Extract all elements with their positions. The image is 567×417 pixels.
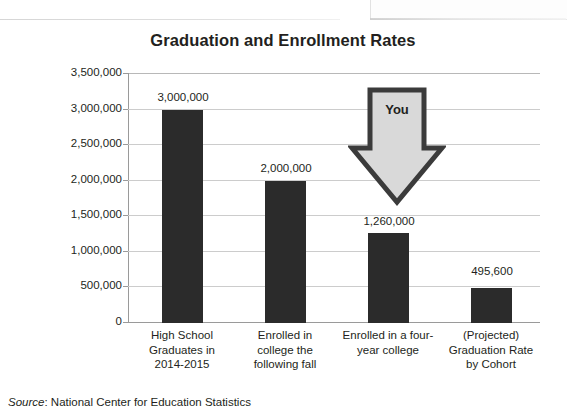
category-label-line: 2014-2015 [126, 357, 238, 372]
down-arrow-icon [348, 86, 446, 206]
category-label-line: Graduates in [126, 343, 238, 358]
category-label-enrolled-in-college: Enrolled in college the following fall [229, 328, 341, 372]
category-label-line: year college [332, 343, 444, 358]
chart-title: Graduation and Enrollment Rates [0, 31, 566, 50]
y-tick-label: 0 [30, 315, 122, 327]
y-tick-label: 1,500,000 [30, 208, 122, 220]
scan-edge-line-right [370, 18, 566, 20]
bar-enrolled-in-college[interactable] [265, 181, 306, 323]
y-tick-mark [123, 322, 128, 323]
y-tick-label: 1,000,000 [30, 244, 122, 256]
y-tick-label: 3,500,000 [30, 66, 122, 78]
category-label-line: by Cohort [435, 357, 547, 372]
category-label-line: Enrolled in [229, 328, 341, 343]
y-tick-mark [123, 286, 128, 287]
you-arrow-annotation[interactable]: You [348, 86, 446, 206]
x-axis-category-labels: High School Graduates in 2014-2015 Enrol… [128, 328, 540, 390]
plot-border-top [128, 73, 540, 74]
bar-value-label: 1,260,000 [329, 215, 449, 227]
category-label-line: High School [126, 328, 238, 343]
bar-value-label: 495,600 [432, 265, 552, 277]
category-label-projected-graduation: (Projected) Graduation Rate by Cohort [435, 328, 547, 372]
y-tick-mark [123, 144, 128, 145]
y-tick-mark [123, 180, 128, 181]
category-label-line: Graduation Rate [435, 343, 547, 358]
category-label-line: Enrolled in a four- [332, 328, 444, 343]
y-tick-mark [123, 73, 128, 74]
y-tick-mark [123, 215, 128, 216]
scan-edge-line-left [0, 19, 340, 20]
y-tick-label: 500,000 [30, 279, 122, 291]
y-tick-label: 2,000,000 [30, 173, 122, 185]
category-label-line: following fall [229, 357, 341, 372]
category-label-enrolled-four-year: Enrolled in a four- year college [332, 328, 444, 357]
category-label-line: (Projected) [435, 328, 547, 343]
bar-value-label: 2,000,000 [226, 162, 346, 174]
y-tick-mark [123, 109, 128, 110]
y-tick-mark [123, 251, 128, 252]
bar-enrolled-four-year[interactable] [368, 233, 409, 323]
source-note: Source: National Center for Education St… [8, 396, 251, 408]
category-label-high-school-graduates: High School Graduates in 2014-2015 [126, 328, 238, 372]
bar-value-label: 3,000,000 [123, 91, 243, 103]
source-label: Source [8, 396, 44, 408]
source-text: National Center for Education Statistics [51, 396, 251, 408]
scan-artifacts [0, 0, 566, 26]
chart-plot-area: 3,000,000 2,000,000 1,260,000 495,600 [128, 73, 540, 323]
y-tick-label: 2,500,000 [30, 137, 122, 149]
y-tick-label: 3,000,000 [30, 102, 122, 114]
scan-edge-panel [370, 0, 567, 19]
bar-projected-graduation[interactable] [471, 288, 512, 323]
bar-high-school-graduates[interactable] [162, 110, 203, 323]
category-label-line: college the [229, 343, 341, 358]
